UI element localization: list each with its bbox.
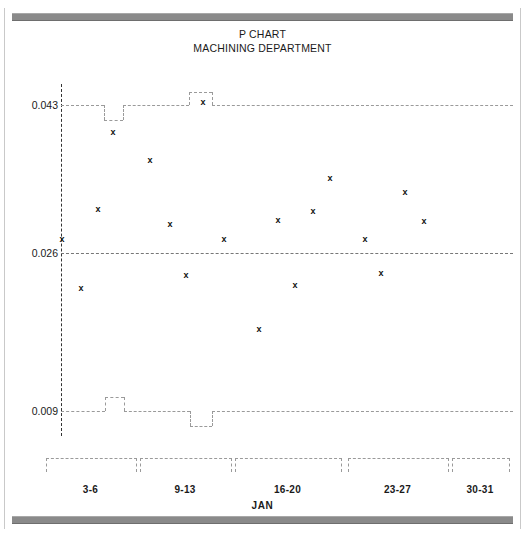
data-point-marker: x <box>310 207 315 216</box>
lower-control-limit-segment <box>61 411 105 412</box>
y-axis-line <box>61 84 62 436</box>
upper-control-limit-riser <box>212 92 213 105</box>
x-axis-group-bracket <box>140 458 232 472</box>
data-point-marker: x <box>292 281 297 290</box>
data-point-marker: x <box>200 98 205 107</box>
data-point-marker: x <box>167 220 172 229</box>
upper-control-limit-segment <box>189 92 212 93</box>
figure-left-rule <box>4 8 5 529</box>
upper-control-limit-segment <box>123 105 189 106</box>
upper-control-limit-riser <box>104 105 105 120</box>
x-axis-group-bracket <box>235 458 342 472</box>
upper-control-limit-segment <box>61 105 104 106</box>
upper-control-limit-riser <box>189 92 190 105</box>
lower-control-limit-riser <box>124 397 125 411</box>
data-point-marker: x <box>78 284 83 293</box>
chart-title: P CHART <box>0 27 525 41</box>
x-axis-group-bracket <box>46 458 137 472</box>
data-point-marker: x <box>183 271 188 280</box>
y-axis-tick-label: 0.026 <box>2 247 58 259</box>
y-axis-tick-label: 0.043 <box>2 99 58 111</box>
data-point-marker: x <box>147 156 152 165</box>
lower-control-limit-segment <box>105 397 124 398</box>
y-axis-tick-label: 0.009 <box>2 405 58 417</box>
lower-control-limit-segment <box>124 411 190 412</box>
x-axis-title: JAN <box>0 500 525 511</box>
lower-control-limit-segment <box>190 426 212 427</box>
data-point-marker: x <box>421 217 426 226</box>
data-point-marker: x <box>327 174 332 183</box>
data-point-marker: x <box>275 216 280 225</box>
data-point-marker: x <box>95 205 100 214</box>
chart-subtitle: MACHINING DEPARTMENT <box>0 41 525 55</box>
center-line-segment <box>61 253 513 254</box>
x-axis-group-label: 9-13 <box>140 484 230 495</box>
x-axis-group-bracket <box>452 458 510 472</box>
lower-control-limit-riser <box>105 397 106 411</box>
x-axis-group-label: 30-31 <box>452 484 508 495</box>
lower-control-limit-riser <box>212 411 213 426</box>
x-axis-group-bracket <box>348 458 449 472</box>
data-point-marker: x <box>378 269 383 278</box>
data-point-marker: x <box>256 325 261 334</box>
x-axis-group-label: 3-6 <box>46 484 135 495</box>
top-accent-bar <box>12 13 513 21</box>
upper-control-limit-segment <box>104 120 123 121</box>
data-point-marker: x <box>221 235 226 244</box>
data-point-marker: x <box>59 235 64 244</box>
upper-control-limit-riser <box>123 105 124 120</box>
figure-right-rule <box>520 8 521 529</box>
upper-control-limit-segment <box>212 105 513 106</box>
bottom-accent-bar <box>12 516 513 524</box>
lower-control-limit-segment <box>212 411 513 412</box>
x-axis-group-label: 16-20 <box>235 484 340 495</box>
data-point-marker: x <box>402 188 407 197</box>
lower-control-limit-riser <box>190 411 191 426</box>
data-point-marker: x <box>362 235 367 244</box>
data-point-marker: x <box>110 128 115 137</box>
p-chart-figure: P CHART MACHINING DEPARTMENT 0.0430.0260… <box>0 0 525 537</box>
chart-title-block: P CHART MACHINING DEPARTMENT <box>0 27 525 55</box>
x-axis-group-label: 23-27 <box>348 484 447 495</box>
